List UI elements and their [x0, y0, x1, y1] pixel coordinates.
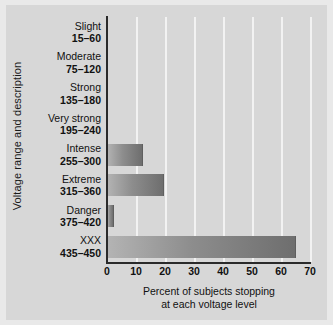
- y-axis-title-container: Voltage range and description: [8, 16, 26, 256]
- y-axis-tick-label: Danger375–420: [26, 201, 104, 232]
- x-axis-tick-labels: 010203040506070: [107, 265, 310, 279]
- x-axis-line: [106, 262, 311, 264]
- bar-row: [107, 48, 310, 79]
- gridline: [310, 17, 312, 262]
- bar: [107, 205, 114, 227]
- y-axis-tick-label: XXX435–450: [26, 231, 104, 262]
- x-axis-tick-label: 50: [246, 265, 258, 277]
- category-voltage-range: 15–60: [72, 32, 101, 45]
- y-axis-tick-label: Strong135–180: [26, 78, 104, 109]
- category-voltage-range: 255–300: [60, 155, 101, 168]
- plot-area: [107, 17, 310, 262]
- x-axis-tick-label: 70: [304, 265, 316, 277]
- y-axis-tick-label: Intense255–300: [26, 140, 104, 171]
- bar-row: [107, 170, 310, 201]
- bar: [107, 236, 296, 258]
- x-axis-tick-label: 20: [159, 265, 171, 277]
- category-voltage-range: 375–420: [60, 216, 101, 229]
- bar-row: [107, 140, 310, 171]
- x-axis-title-line-1: Percent of subjects stopping: [96, 285, 322, 298]
- category-name: Slight: [75, 20, 101, 33]
- x-axis-tick-label: 30: [188, 265, 200, 277]
- category-name: Very strong: [48, 112, 101, 125]
- bar-row: [107, 201, 310, 232]
- category-name: Strong: [70, 81, 101, 94]
- category-name: Moderate: [57, 50, 101, 63]
- category-name: Intense: [67, 142, 101, 155]
- x-axis-tick-label: 60: [275, 265, 287, 277]
- bar-row: [107, 17, 310, 48]
- y-axis-tick-label: Slight15–60: [26, 17, 104, 48]
- y-axis-tick-label: Moderate75–120: [26, 48, 104, 79]
- x-axis-tick-label: 0: [104, 265, 110, 277]
- category-name: Extreme: [62, 173, 101, 186]
- bar-row: [107, 78, 310, 109]
- chart-figure: Voltage range and description Slight15–6…: [0, 0, 333, 325]
- bar-row: [107, 109, 310, 140]
- category-voltage-range: 315–360: [60, 185, 101, 198]
- y-axis-tick-label: Extreme315–360: [26, 170, 104, 201]
- x-axis-tick-label: 10: [130, 265, 142, 277]
- bar-row: [107, 231, 310, 262]
- y-axis-tick-label: Very strong195–240: [26, 109, 104, 140]
- category-name: Danger: [67, 204, 101, 217]
- category-voltage-range: 195–240: [60, 124, 101, 137]
- x-axis-title-line-2: at each voltage level: [96, 298, 322, 311]
- category-name: XXX: [80, 234, 101, 247]
- y-axis-tick-labels: Slight15–60Moderate75–120Strong135–180Ve…: [26, 17, 104, 262]
- category-voltage-range: 75–120: [66, 63, 101, 76]
- x-axis-tick-label: 40: [217, 265, 229, 277]
- category-voltage-range: 135–180: [60, 94, 101, 107]
- y-axis-title: Voltage range and description: [11, 62, 23, 210]
- x-axis-title: Percent of subjects stopping at each vol…: [96, 285, 322, 311]
- bar: [107, 174, 164, 196]
- bar: [107, 144, 143, 166]
- category-voltage-range: 435–450: [60, 247, 101, 260]
- y-axis-line: [106, 16, 108, 263]
